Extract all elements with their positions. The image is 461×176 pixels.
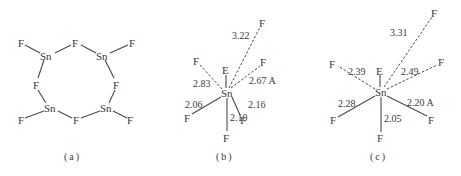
atom-sn: Sn bbox=[96, 50, 108, 62]
atom-f: F bbox=[113, 79, 119, 91]
atom-f: F bbox=[33, 79, 39, 91]
atom-f: F bbox=[428, 114, 434, 126]
atom-f: F bbox=[259, 17, 265, 29]
atom-sn-center: Sn bbox=[375, 86, 387, 98]
bond bbox=[110, 45, 128, 53]
distance-label: 3.31 bbox=[390, 27, 408, 38]
distance-label: 2.20 A bbox=[407, 97, 434, 108]
atom-f: F bbox=[329, 58, 335, 70]
bond bbox=[81, 45, 96, 53]
atom-f: F bbox=[260, 56, 266, 68]
atom-f: F bbox=[377, 132, 383, 144]
tin-fluoride-structures-figure: F Sn F Sn F F F Sn F F Sn F (a) Sn E F F… bbox=[0, 0, 461, 176]
bond bbox=[55, 45, 71, 53]
atom-f: F bbox=[184, 112, 190, 124]
distance-label: 2.83 bbox=[193, 78, 211, 89]
panel-caption: (a) bbox=[64, 151, 81, 163]
bond bbox=[58, 111, 72, 118]
bond bbox=[105, 60, 114, 78]
distance-label: 2.06 bbox=[185, 99, 203, 110]
atom-f: F bbox=[18, 114, 24, 126]
distance-label: 3.22 bbox=[232, 30, 250, 41]
distance-label: 2.39 bbox=[348, 66, 366, 77]
atom-f: F bbox=[193, 55, 199, 67]
distance-label: 2.16 bbox=[248, 99, 266, 110]
lone-pair-e: E bbox=[222, 64, 229, 76]
atom-f: F bbox=[431, 7, 437, 19]
atom-f: F bbox=[127, 114, 133, 126]
atom-f: F bbox=[129, 37, 135, 49]
atom-f: F bbox=[330, 114, 336, 126]
panel-a-ring-structure: F Sn F Sn F F F Sn F F Sn F (a) bbox=[18, 37, 135, 163]
panel-c-coordination: Sn E F F F F F F 3.31 2.39 2.49 2.28 2.0… bbox=[329, 7, 444, 163]
atom-sn: Sn bbox=[44, 102, 56, 114]
atom-sn-center: Sn bbox=[221, 87, 233, 99]
bond bbox=[38, 60, 44, 78]
distance-label: 2.67 A bbox=[249, 75, 276, 86]
atom-sn: Sn bbox=[100, 102, 112, 114]
panel-b-coordination: Sn E F F F F F F 3.22 2.83 2.67 A 2.06 2… bbox=[184, 17, 276, 163]
distance-label: 2.28 bbox=[338, 98, 356, 109]
atom-f: F bbox=[18, 37, 24, 49]
atom-sn: Sn bbox=[40, 50, 52, 62]
atom-f: F bbox=[223, 132, 229, 144]
atom-f: F bbox=[438, 56, 444, 68]
bond bbox=[25, 111, 44, 118]
distance-label: 2.05 bbox=[384, 113, 402, 124]
lone-pair-e: E bbox=[376, 65, 383, 77]
bond bbox=[81, 111, 100, 118]
distance-label: 2.10 bbox=[230, 112, 248, 123]
distance-label: 2.49 bbox=[401, 66, 419, 77]
atom-f: F bbox=[73, 114, 79, 126]
bond bbox=[113, 111, 127, 118]
panel-caption: (c) bbox=[370, 151, 387, 163]
panel-caption: (b) bbox=[216, 151, 234, 163]
bond bbox=[25, 45, 40, 53]
atom-f: F bbox=[72, 37, 78, 49]
